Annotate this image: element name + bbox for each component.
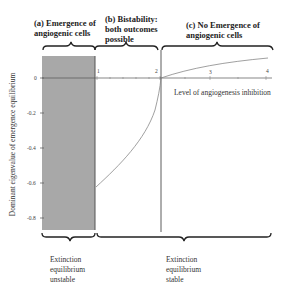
x-tick-4: 4 <box>266 68 269 74</box>
y-tick-0: 0 <box>34 75 37 81</box>
y-tick-2: -0.4 <box>27 145 36 151</box>
shaded-emergence-region <box>42 56 95 230</box>
y-tick-1: -0.2 <box>27 110 36 116</box>
brace-bottom-left <box>42 233 95 241</box>
y-axis-label: Dominant eigenvalue of emergence equilib… <box>8 65 17 225</box>
brace-bottom-right <box>97 233 271 241</box>
bottom-left-line2: equilibrium <box>50 265 85 275</box>
x-tick-3: 3 <box>209 69 212 75</box>
y-tick-4: -0.8 <box>27 215 36 221</box>
bottom-left-line3: unstable <box>50 275 85 285</box>
brace-c <box>162 42 273 50</box>
brace-a <box>43 42 95 50</box>
bottom-right-line3: stable <box>166 275 201 285</box>
eigenvalue-curve-upper <box>161 58 268 78</box>
x-axis-label: Level of angiogenesis inhibition <box>174 88 271 98</box>
bottom-right-line2: equilibrium <box>166 265 201 275</box>
brace-b <box>95 42 158 50</box>
x-tick-2: 2 <box>155 68 158 74</box>
eigenvalue-curve-lower <box>96 78 161 187</box>
x-tick-1: 1 <box>97 68 100 74</box>
bottom-right-line1: Extinction <box>166 255 201 265</box>
chart-canvas <box>0 0 293 300</box>
y-tick-3: -0.6 <box>27 180 36 186</box>
bottom-left-line1: Extinction <box>50 255 85 265</box>
bottom-label-unstable: Extinction equilibrium unstable <box>50 255 85 285</box>
bottom-label-stable: Extinction equilibrium stable <box>166 255 201 285</box>
